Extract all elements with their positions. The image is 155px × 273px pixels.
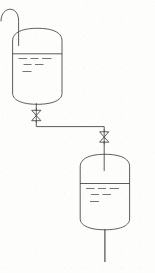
lower-tank-liquid-marks bbox=[86, 189, 119, 202]
lower-tank bbox=[80, 154, 129, 230]
upper-gate-valve[interactable] bbox=[32, 109, 41, 123]
upper-tank-shell bbox=[13, 28, 62, 104]
upper-tank bbox=[13, 28, 62, 104]
process-flow-diagram bbox=[0, 0, 155, 273]
inlet-hook-path bbox=[1, 9, 19, 45]
upper-tank-liquid-marks bbox=[19, 59, 52, 72]
transfer-line bbox=[36, 121, 104, 131]
inlet-hook-pipe bbox=[1, 9, 19, 45]
flow-diagram-canvas bbox=[0, 0, 155, 273]
lower-tank-shell bbox=[80, 154, 129, 230]
